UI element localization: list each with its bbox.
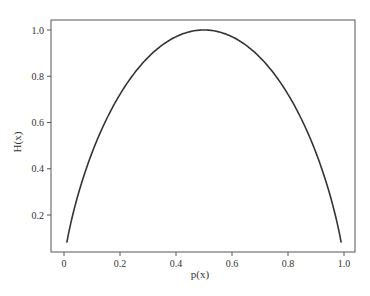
y-axis-ticks: 0.20.40.60.81.0 <box>32 25 52 221</box>
x-tick-label: 1.0 <box>338 258 351 269</box>
x-axis-ticks: 00.20.40.60.81.0 <box>62 252 351 269</box>
x-tick-label: 0 <box>62 258 67 269</box>
y-tick-label: 0.8 <box>32 71 45 82</box>
y-tick-label: 0.4 <box>32 163 45 174</box>
x-axis-label: p(x) <box>191 268 210 281</box>
x-tick-label: 0.4 <box>170 258 183 269</box>
y-tick-label: 0.2 <box>32 210 45 221</box>
x-tick-label: 0.6 <box>226 258 239 269</box>
y-tick-label: 0.6 <box>32 117 45 128</box>
x-tick-label: 0.2 <box>114 258 127 269</box>
y-tick-label: 1.0 <box>32 25 45 36</box>
y-axis-label: H(x) <box>11 131 24 152</box>
x-tick-label: 0.8 <box>282 258 295 269</box>
entropy-curve <box>67 30 341 243</box>
entropy-chart: 00.20.40.60.81.0 0.20.40.60.81.0 p(x) H(… <box>0 0 370 296</box>
